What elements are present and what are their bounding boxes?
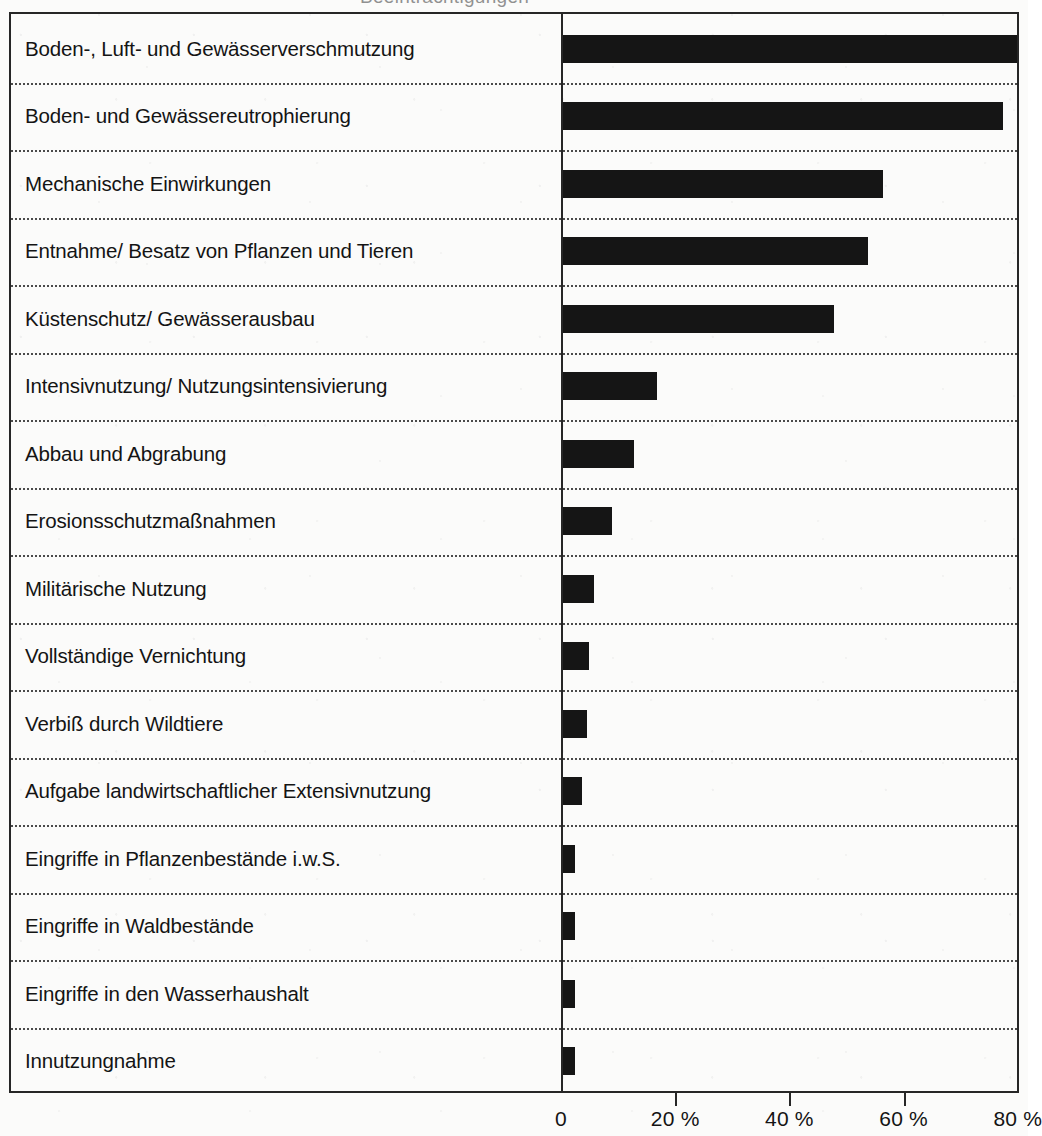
row-separator: [11, 623, 1017, 625]
zero-baseline-axis: [561, 14, 563, 1091]
category-label: Aufgabe landwirtschaftlicher Extensivnut…: [25, 779, 553, 803]
row-separator: [11, 960, 1017, 962]
category-label: Entnahme/ Besatz von Pflanzen und Tieren: [25, 239, 553, 263]
row-separator: [11, 420, 1017, 422]
chart-row: Boden-, Luft- und Gewässerverschmutzung: [11, 15, 1017, 83]
category-label: Eingriffe in Pflanzenbestände i.w.S.: [25, 847, 553, 871]
category-label: Militärische Nutzung: [25, 577, 553, 601]
chart-row: Mechanische Einwirkungen: [11, 150, 1017, 218]
x-axis-tick-label: 60 %: [879, 1107, 928, 1131]
bar: [563, 642, 589, 670]
row-separator: [11, 825, 1017, 827]
category-label: Innutzungnahme: [25, 1049, 553, 1073]
chart-row: Aufgabe landwirtschaftlicher Extensivnut…: [11, 758, 1017, 826]
bar: [563, 507, 612, 535]
chart-row: Abbau und Abgrabung: [11, 420, 1017, 488]
chart-row: Eingriffe in Waldbestände: [11, 893, 1017, 961]
bar: [563, 35, 1017, 63]
category-label: Abbau und Abgrabung: [25, 442, 553, 466]
chart-row: Entnahme/ Besatz von Pflanzen und Tieren: [11, 218, 1017, 286]
cropped-title-remnant: Beeinträchtigungen: [360, 0, 680, 7]
x-axis-tick-label: 80 %: [993, 1107, 1042, 1131]
category-label: Verbiß durch Wildtiere: [25, 712, 553, 736]
row-separator: [11, 1028, 1017, 1030]
bar: [563, 102, 1003, 130]
row-separator: [11, 758, 1017, 760]
category-label: Boden-, Luft- und Gewässerverschmutzung: [25, 37, 553, 61]
category-label: Mechanische Einwirkungen: [25, 172, 553, 196]
category-label: Boden- und Gewässereutrophierung: [25, 104, 553, 128]
bar: [563, 710, 587, 738]
row-separator: [11, 893, 1017, 895]
bar: [563, 440, 634, 468]
category-label: Erosionsschutzmaßnahmen: [25, 509, 553, 533]
category-label: Vollständige Vernichtung: [25, 644, 553, 668]
bar: [563, 912, 575, 940]
bar: [563, 1047, 575, 1075]
cropped-title-text: Beeinträchtigungen: [360, 0, 529, 7]
row-separator: [11, 555, 1017, 557]
chart-frame: Boden-, Luft- und GewässerverschmutzungB…: [9, 12, 1019, 1093]
bar: [563, 980, 575, 1008]
chart-row: Boden- und Gewässereutrophierung: [11, 83, 1017, 151]
category-label: Intensivnutzung/ Nutzungsintensivierung: [25, 374, 553, 398]
bar: [563, 170, 883, 198]
row-separator: [11, 488, 1017, 490]
chart-row: Eingriffe in den Wasserhaushalt: [11, 960, 1017, 1028]
chart-row: Küstenschutz/ Gewässerausbau: [11, 285, 1017, 353]
row-separator: [11, 150, 1017, 152]
row-separator: [11, 218, 1017, 220]
chart-row: Vollständige Vernichtung: [11, 623, 1017, 691]
bar: [563, 305, 834, 333]
chart-row: Innutzungnahme: [11, 1028, 1017, 1096]
chart-row: Militärische Nutzung: [11, 555, 1017, 623]
category-label: Eingriffe in Waldbestände: [25, 914, 553, 938]
bar-rows: Boden-, Luft- und GewässerverschmutzungB…: [11, 14, 1017, 1091]
row-separator: [11, 285, 1017, 287]
row-separator: [11, 83, 1017, 85]
bar: [563, 372, 657, 400]
x-axis-tick-label: 20 %: [651, 1107, 700, 1131]
x-axis-tick-label: 0: [555, 1107, 567, 1131]
chart-row: Erosionsschutzmaßnahmen: [11, 488, 1017, 556]
row-separator: [11, 690, 1017, 692]
x-axis-tick-label: 40 %: [765, 1107, 814, 1131]
chart-row: Verbiß durch Wildtiere: [11, 690, 1017, 758]
x-axis-tick: [675, 1093, 677, 1106]
x-axis: 020 %40 %60 %80 %: [9, 1093, 1019, 1136]
category-label: Küstenschutz/ Gewässerausbau: [25, 307, 553, 331]
bar: [563, 845, 575, 873]
bar: [563, 575, 594, 603]
category-label: Eingriffe in den Wasserhaushalt: [25, 982, 553, 1006]
chart-row: Intensivnutzung/ Nutzungsintensivierung: [11, 353, 1017, 421]
x-axis-tick: [789, 1093, 791, 1106]
bar: [563, 237, 868, 265]
row-separator: [11, 353, 1017, 355]
bar: [563, 777, 582, 805]
x-axis-tick: [904, 1093, 906, 1106]
chart-row: Eingriffe in Pflanzenbestände i.w.S.: [11, 825, 1017, 893]
